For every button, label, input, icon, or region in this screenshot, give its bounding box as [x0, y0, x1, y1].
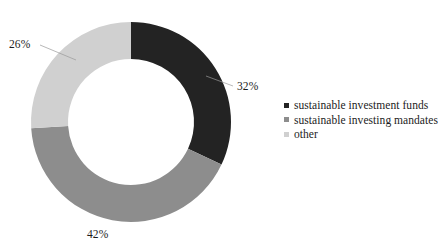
- donut-slice[interactable]: [131, 22, 231, 165]
- legend-swatch-icon: [284, 117, 289, 122]
- legend-item-label: sustainable investing mandates: [294, 114, 438, 126]
- legend-item-label: other: [294, 128, 318, 140]
- slice-label-sustainable-investing-mandates: 42%: [87, 228, 108, 240]
- legend-item-other[interactable]: other: [284, 127, 442, 142]
- legend-item-sustainable-investing-mandates[interactable]: sustainable investing mandates: [284, 113, 442, 128]
- legend-item-sustainable-investment-funds[interactable]: sustainable investment funds: [284, 98, 442, 113]
- legend-swatch-icon: [284, 132, 289, 137]
- donut-slice[interactable]: [31, 22, 131, 128]
- legend-item-label: sustainable investment funds: [294, 99, 428, 111]
- legend-swatch-icon: [284, 103, 289, 108]
- chart-legend: sustainable investment funds sustainable…: [284, 98, 442, 142]
- chart-page: 32% 42% 26% sustainable investment funds…: [0, 0, 442, 245]
- donut-slices: [31, 22, 231, 222]
- slice-label-other: 26%: [9, 38, 30, 50]
- slice-label-sustainable-investment-funds: 32%: [237, 80, 258, 92]
